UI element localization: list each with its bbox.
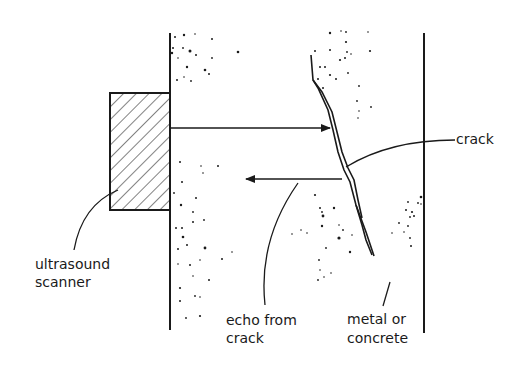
scanner-label-line2: scanner: [35, 273, 91, 291]
material-label-line1: metal or: [347, 310, 406, 328]
material-label-line2: concrete: [347, 329, 408, 347]
scanner-label-line1: ultrasound: [35, 255, 110, 273]
crack-leader-line: [346, 140, 455, 167]
material-leader-line: [383, 282, 390, 306]
echo-leader-line: [264, 183, 298, 305]
echo-label-line1: echo from: [226, 311, 297, 329]
crack-label: crack: [456, 130, 494, 148]
echo-label-line2: crack: [226, 329, 264, 347]
crack: [311, 55, 374, 256]
material-speckles: [171, 30, 423, 319]
ultrasound-scanner: [110, 93, 170, 210]
